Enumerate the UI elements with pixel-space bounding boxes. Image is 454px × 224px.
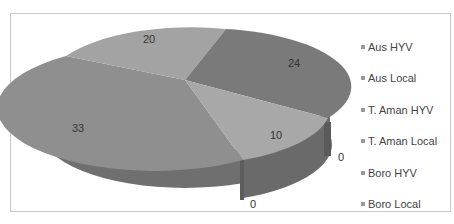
legend-item: Aus HYV: [361, 31, 437, 63]
legend-item: Boro Local: [361, 189, 437, 221]
legend: Aus HYV Aus Local T. Aman HYV T. Aman Lo…: [361, 31, 437, 220]
legend-item: Aus Local: [361, 63, 437, 95]
legend-item: T. Aman HYV: [361, 94, 437, 126]
legend-swatch: [361, 76, 365, 80]
label-aus-hyv: 24: [288, 57, 300, 69]
zero-wedge-right: [324, 122, 331, 156]
label-t-aman-hyv: 10: [270, 129, 282, 141]
legend-swatch: [361, 171, 365, 175]
label-boro-hyv: 33: [72, 122, 84, 134]
zero-wedge-bottom: [240, 160, 244, 200]
legend-swatch: [361, 202, 365, 206]
legend-swatch: [361, 108, 365, 112]
legend-swatch: [361, 45, 365, 49]
legend-swatch: [361, 139, 365, 143]
legend-item: Boro HYV: [361, 157, 437, 189]
label-t-aman-local: 0: [250, 198, 256, 210]
label-aus-local: 0: [338, 151, 344, 163]
legend-item: T. Aman Local: [361, 126, 437, 158]
label-boro-local: 20: [143, 33, 155, 45]
